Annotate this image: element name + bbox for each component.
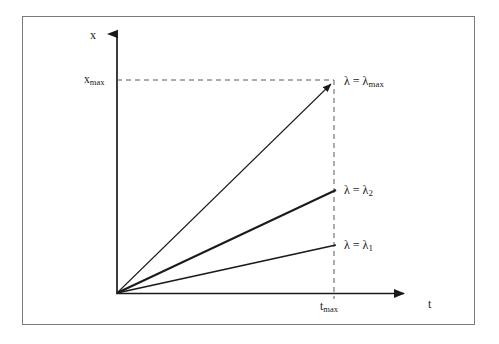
series-label-lambda-max-subscript: max bbox=[368, 79, 384, 89]
tick-tmax-subscript: max bbox=[323, 304, 338, 314]
series-line-lambda-2 bbox=[117, 190, 336, 293]
x-axis-label: t bbox=[428, 298, 431, 310]
x-axis-tick-label-tmax: tmax bbox=[320, 301, 338, 314]
tick-xmax-subscript: max bbox=[90, 77, 105, 87]
series-label-lambda-1-subscript: 1 bbox=[368, 243, 373, 253]
series-line-lambda-1 bbox=[117, 245, 336, 293]
y-axis-label: x bbox=[90, 29, 96, 41]
figure-root: x t xmax tmax λ = λmax λ = λ2 λ = λ1 bbox=[0, 0, 499, 344]
series-label-lambda-2-main: λ = λ bbox=[344, 183, 368, 197]
series-label-lambda-1-main: λ = λ bbox=[344, 238, 368, 252]
series-label-lambda-1: λ = λ1 bbox=[344, 239, 373, 253]
series-label-lambda-2-subscript: 2 bbox=[368, 188, 373, 198]
y-axis-tick-label-xmax: xmax bbox=[84, 74, 105, 87]
series-label-lambda-max: λ = λmax bbox=[344, 75, 384, 89]
plot-canvas bbox=[0, 0, 499, 344]
series-label-lambda-2: λ = λ2 bbox=[344, 184, 373, 198]
series-line-lambda-max bbox=[117, 84, 331, 293]
series-label-lambda-max-main: λ = λ bbox=[344, 74, 368, 88]
